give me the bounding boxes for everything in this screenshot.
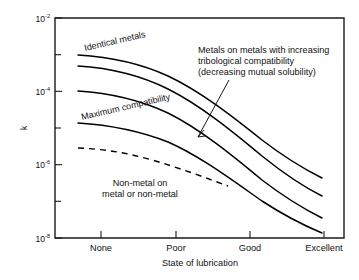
y-tick-label-1e-6: 10-6 <box>36 159 50 170</box>
annotation-metals-line-1: Metals on metals with increasing <box>198 45 329 55</box>
x-tick-label-none: None <box>90 243 112 253</box>
y-tick-label-1e-8: 10-8 <box>36 233 50 244</box>
x-tick-label-poor: Poor <box>166 243 185 253</box>
annotation-non-metal-line-2: metal or non-metal <box>102 189 178 199</box>
y-axis-title-group: k <box>19 125 29 130</box>
curve-label-identical-metals: Identical metals <box>83 29 147 53</box>
annotation-metals-on-metals: Metals on metals with increasing tribolo… <box>198 45 329 137</box>
y-axis-title: k <box>19 125 29 130</box>
x-tick-label-excellent: Excellent <box>305 243 343 253</box>
x-axis-title: State of lubrication <box>162 258 238 268</box>
x-tick-label-good: Good <box>239 243 261 253</box>
annotation-non-metal: Non-metal on metal or non-metal <box>102 178 178 199</box>
chart-svg: 10-2 10-4 10-6 10-8 k None Poor Good Exc… <box>0 0 359 280</box>
curve-label-maximum-compatibility: Maximum compatibility <box>80 92 171 122</box>
y-axis-ticks <box>55 18 62 238</box>
x-axis-tick-labels: None Poor Good Excellent <box>90 243 343 253</box>
data-curves <box>78 55 322 233</box>
figure-container: 10-2 10-4 10-6 10-8 k None Poor Good Exc… <box>0 0 359 280</box>
annotation-non-metal-line-1: Non-metal on <box>113 178 168 188</box>
annotation-arrow-line <box>198 80 229 137</box>
annotation-metals-line-2: tribological compatibility <box>198 56 294 66</box>
annotation-metals-line-3: (decreasing mutual solubility) <box>198 67 316 77</box>
y-tick-label-1e-4: 10-4 <box>36 86 50 97</box>
y-axis-tick-labels: 10-2 10-4 10-6 10-8 <box>36 13 50 244</box>
x-axis-ticks <box>101 231 324 238</box>
y-tick-label-1e-2: 10-2 <box>36 13 50 24</box>
